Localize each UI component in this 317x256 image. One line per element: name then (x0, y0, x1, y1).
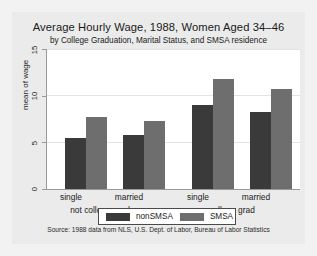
legend-label-smsa: SMSA (210, 212, 233, 221)
legend-item-smsa: SMSA (173, 209, 233, 224)
legend-item-nonsmsa: nonSMSA (99, 209, 173, 224)
x-category-college-single: single (178, 192, 218, 202)
legend-swatch-smsa (180, 213, 204, 221)
bar-nonsmsa-notcollege-single (65, 138, 86, 189)
y-tick-10: 10 (30, 91, 40, 101)
legend-swatch-nonsmsa (106, 213, 130, 221)
y-tick-label-10: 10 (30, 91, 40, 101)
x-category-notcollege-single: single (51, 192, 91, 202)
y-tick-15: 15 (30, 45, 40, 55)
bar-nonsmsa-notcollege-married (123, 135, 144, 189)
y-tick-label-5: 5 (30, 138, 40, 148)
y-tick-5: 5 (30, 138, 40, 148)
gridline-10 (47, 95, 300, 96)
chart-subtitle: by College Graduation, Marital Status, a… (12, 36, 305, 45)
legend-label-nonsmsa: nonSMSA (136, 212, 173, 221)
plot-area (47, 49, 300, 189)
bar-smsa-notcollege-single (86, 117, 107, 189)
x-axis-line (46, 189, 300, 190)
legend: nonSMSA SMSA (98, 208, 236, 225)
bar-smsa-college-single (213, 79, 234, 189)
gridline-15 (47, 49, 300, 50)
chart-title: Average Hourly Wage, 1988, Women Aged 34… (12, 21, 305, 33)
source-note: Source: 1988 data from NLS, U.S. Dept. o… (12, 226, 305, 233)
y-tick-label-0: 0 (30, 184, 40, 194)
x-category-college-married: married (236, 192, 276, 202)
bar-smsa-notcollege-married (144, 121, 165, 189)
bar-nonsmsa-college-married (250, 112, 271, 189)
y-tick-label-15: 15 (30, 45, 40, 55)
figure-area: Average Hourly Wage, 1988, Women Aged 34… (12, 12, 305, 244)
bar-nonsmsa-college-single (192, 105, 213, 189)
x-category-notcollege-married: married (109, 192, 149, 202)
bar-smsa-college-married (271, 89, 292, 189)
y-tick-0: 0 (30, 184, 40, 194)
chart-screenshot: Average Hourly Wage, 1988, Women Aged 34… (0, 0, 317, 256)
